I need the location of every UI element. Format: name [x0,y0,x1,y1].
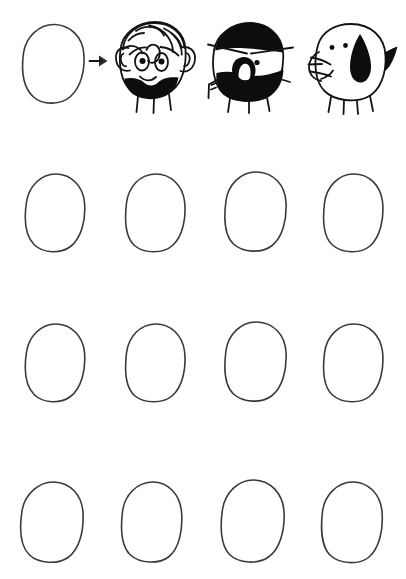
right-arrow-icon [88,52,108,70]
blank-blob-r2c2[interactable] [122,320,190,406]
blank-blob-r1c1[interactable] [22,170,90,256]
blank-blob-r1c4[interactable] [320,170,388,256]
prompt-source-blob[interactable] [18,18,90,110]
example-snouted-creature[interactable] [304,16,400,118]
blank-blob-r3c4[interactable] [318,478,388,568]
blank-blob-r2c1[interactable] [22,320,90,406]
example-black-cap-open-mouth-face[interactable] [206,16,296,116]
blank-blob-r1c2[interactable] [122,170,190,256]
blank-blob-r3c1[interactable] [18,478,90,568]
example-curly-hair-bearded-face[interactable] [110,16,202,116]
worksheet-canvas [0,0,406,579]
blank-blob-r3c2[interactable] [118,478,188,568]
blank-blob-r2c3[interactable] [222,318,292,406]
blank-blob-r3c3[interactable] [218,476,290,568]
blank-blob-r1c3[interactable] [222,168,292,256]
blank-blob-r2c4[interactable] [320,320,388,406]
